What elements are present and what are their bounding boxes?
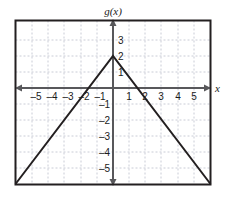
y-axis-label: g(x) bbox=[104, 5, 122, 18]
x-tick-label--4: –4 bbox=[46, 91, 58, 102]
graph-figure: –5 –4 –3 –2 –1 1 2 3 4 5 3 2 1 –1 –2 –3 … bbox=[0, 0, 227, 197]
y-tick-label--3: –3 bbox=[99, 131, 111, 142]
x-tick-label-4: 4 bbox=[175, 91, 181, 102]
x-tick-label-1: 1 bbox=[126, 91, 132, 102]
y-tick-label--1: –1 bbox=[99, 99, 111, 110]
x-tick-label-3: 3 bbox=[158, 91, 164, 102]
y-tick-label-2: 2 bbox=[118, 51, 124, 62]
x-axis-label: x bbox=[214, 82, 220, 94]
coordinate-plane: –5 –4 –3 –2 –1 1 2 3 4 5 3 2 1 –1 –2 –3 … bbox=[0, 0, 227, 197]
x-tick-label-5: 5 bbox=[191, 91, 197, 102]
x-tick-label--3: –3 bbox=[62, 91, 74, 102]
y-tick-label--5: –5 bbox=[99, 163, 111, 174]
x-tick-label--5: –5 bbox=[30, 91, 42, 102]
x-tick-label--2: –2 bbox=[78, 91, 90, 102]
y-tick-label-3: 3 bbox=[118, 35, 124, 46]
y-tick-label--2: –2 bbox=[99, 115, 111, 126]
y-tick-label--4: –4 bbox=[99, 147, 111, 158]
x-tick-label-2: 2 bbox=[142, 91, 148, 102]
y-tick-label-1: 1 bbox=[118, 67, 124, 78]
